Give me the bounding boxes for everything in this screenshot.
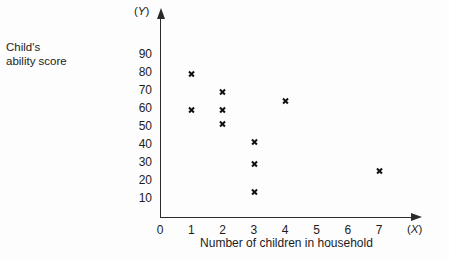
x-axis-line (160, 217, 413, 218)
y-tick-label-40: 40 (132, 137, 152, 151)
scatter-plot-figure: Child's ability score (Y) (X) 1020304050… (0, 0, 449, 259)
x-axis-symbol: (X) (407, 223, 422, 235)
x-tick-label-2: 2 (216, 223, 230, 237)
data-point (282, 97, 289, 104)
y-tick-label-30: 30 (132, 155, 152, 169)
y-tick-label-60: 60 (132, 101, 152, 115)
x-tick-label-7: 7 (372, 223, 386, 237)
y-tick-label-90: 90 (132, 47, 152, 61)
data-point (250, 160, 257, 167)
data-point (250, 188, 257, 195)
data-point (376, 167, 383, 174)
y-tick-label-20: 20 (132, 173, 152, 187)
y-axis-line (160, 18, 161, 218)
y-symbol-paren-close: ) (146, 5, 150, 17)
x-axis-caption: Number of children in household (160, 236, 413, 250)
y-axis-arrow-icon (157, 8, 165, 19)
x-tick-label-4: 4 (278, 223, 292, 237)
plot-area: (Y) (X) 102030405060708090 01234567 (0, 0, 449, 259)
data-point (188, 106, 195, 113)
y-tick-label-10: 10 (132, 191, 152, 205)
data-point (188, 70, 195, 77)
data-point (219, 106, 226, 113)
y-axis-symbol: (Y) (134, 5, 149, 17)
x-axis-arrow-icon (411, 213, 422, 221)
y-tick-label-50: 50 (132, 119, 152, 133)
y-tick-label-70: 70 (132, 83, 152, 97)
data-point (250, 138, 257, 145)
x-symbol-paren-close: ) (419, 223, 423, 235)
x-tick-label-0: 0 (153, 223, 167, 237)
x-tick-label-6: 6 (341, 223, 355, 237)
x-symbol-variable: X (411, 223, 419, 235)
x-tick-label-3: 3 (247, 223, 261, 237)
data-point (219, 120, 226, 127)
data-point (219, 88, 226, 95)
y-tick-label-80: 80 (132, 65, 152, 79)
x-tick-label-1: 1 (184, 223, 198, 237)
x-tick-label-5: 5 (310, 223, 324, 237)
y-symbol-variable: Y (138, 5, 146, 17)
